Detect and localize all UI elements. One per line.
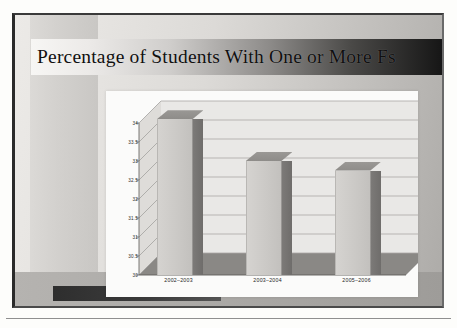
bar-top-face (335, 162, 382, 171)
bar-top-face (157, 110, 204, 119)
bar (246, 152, 293, 275)
bar-side-face (370, 171, 381, 276)
bar-side-face (192, 119, 203, 275)
bar-top-face (246, 152, 293, 161)
bars-layer (106, 91, 418, 297)
page-rule (6, 318, 451, 319)
bar-front-face (335, 171, 372, 276)
presentation-slide: Percentage of Students With One or More … (12, 13, 444, 308)
bar-side-face (281, 161, 292, 275)
page-title: Percentage of Students With One or More … (37, 40, 438, 74)
bar (335, 162, 382, 276)
bar-front-face (246, 161, 283, 275)
bar (157, 110, 204, 275)
bar-chart: 3433.53332.53231.53130.530 2002–20032003… (106, 91, 418, 297)
scanned-page: Percentage of Students With One or More … (0, 0, 457, 328)
bar-front-face (157, 119, 194, 275)
